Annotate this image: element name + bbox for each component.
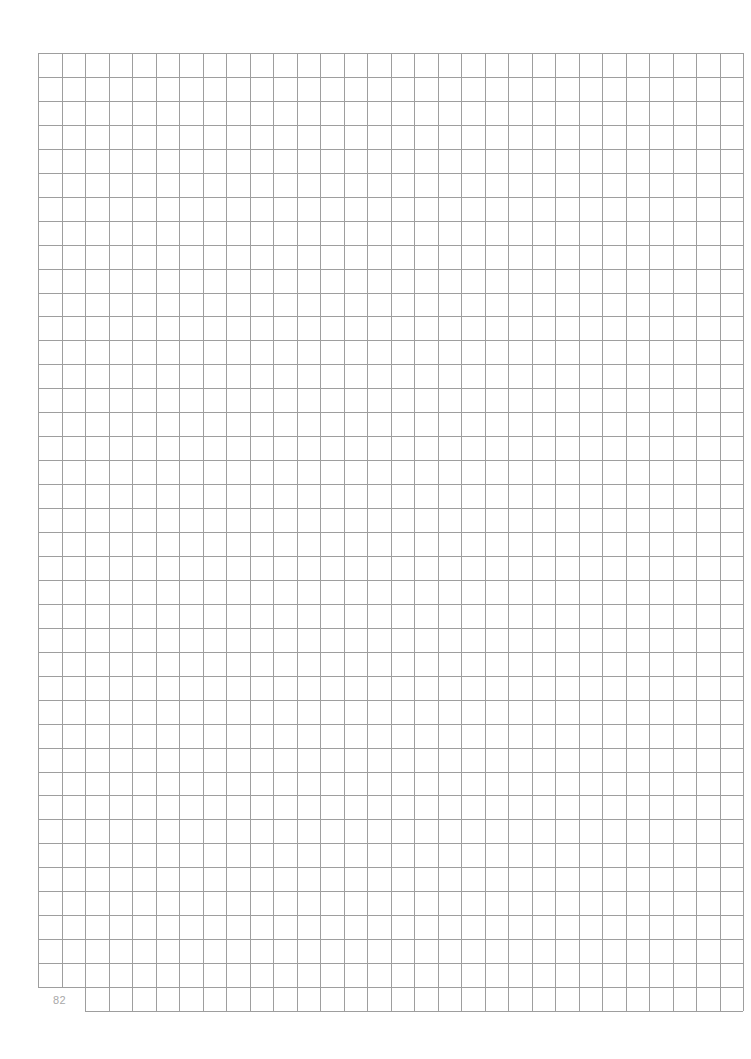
page-number: 82 (53, 994, 66, 1006)
graph-paper-page: 82 (0, 0, 751, 1059)
graph-grid (0, 0, 751, 1059)
